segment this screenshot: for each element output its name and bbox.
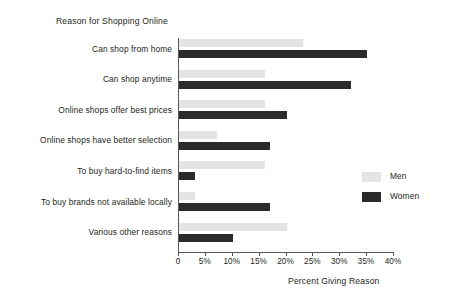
- bar-group: To buy brands not available locally: [178, 191, 393, 212]
- x-tick-label: 40%: [385, 257, 402, 266]
- bar-group: Can shop anytime: [178, 69, 393, 90]
- x-tick-label: 25%: [304, 257, 321, 266]
- legend-swatch-icon: [362, 192, 381, 202]
- bar-women: [179, 111, 287, 119]
- bar-group: To buy hard-to-find items: [178, 160, 393, 181]
- x-tick-label: 20%: [277, 257, 294, 266]
- x-tick-mark: [393, 252, 394, 256]
- category-label: Online shops have better selection: [40, 135, 172, 145]
- bar-men: [179, 131, 217, 139]
- chart-title: Reason for Shopping Online: [56, 16, 168, 26]
- bar-men: [179, 100, 265, 108]
- x-tick-label: 15%: [250, 257, 267, 266]
- legend-label: Men: [390, 171, 407, 181]
- bar-women: [179, 172, 195, 180]
- bar-women: [179, 50, 367, 58]
- x-tick-mark: [205, 252, 206, 256]
- bar-women: [179, 142, 270, 150]
- bar-men: [179, 161, 265, 169]
- x-tick-mark: [366, 252, 367, 256]
- x-tick-label: 10%: [223, 257, 240, 266]
- bar-women: [179, 81, 351, 89]
- bar-men: [179, 223, 287, 231]
- bar-men: [179, 39, 303, 47]
- x-tick-label: 35%: [358, 257, 375, 266]
- x-tick-mark: [232, 252, 233, 256]
- category-label: Online shops offer best prices: [58, 105, 172, 115]
- category-label: To buy hard-to-find items: [77, 166, 172, 176]
- category-label: To buy brands not available locally: [41, 197, 172, 207]
- x-axis-title: Percent Giving Reason: [288, 276, 380, 286]
- legend-label: Women: [390, 191, 419, 201]
- legend-swatch-icon: [362, 172, 381, 182]
- plot-area: Can shop from homeCan shop anytimeOnline…: [178, 38, 393, 252]
- x-tick-mark: [259, 252, 260, 256]
- x-tick-mark: [178, 252, 179, 256]
- x-tick-label: 5%: [199, 257, 211, 266]
- bar-group: Online shops offer best prices: [178, 99, 393, 120]
- category-label: Various other reasons: [89, 227, 172, 237]
- bar-group: Online shops have better selection: [178, 130, 393, 151]
- x-tick-label: 0: [176, 257, 181, 266]
- x-tick-label: 30%: [331, 257, 348, 266]
- bar-women: [179, 203, 270, 211]
- bar-women: [179, 234, 233, 242]
- x-tick-mark: [312, 252, 313, 256]
- bar-chart: Reason for Shopping Online Can shop from…: [0, 0, 452, 301]
- bar-men: [179, 70, 265, 78]
- category-label: Can shop anytime: [103, 74, 172, 84]
- bar-group: Various other reasons: [178, 222, 393, 243]
- x-tick-mark: [339, 252, 340, 256]
- x-tick-mark: [286, 252, 287, 256]
- bar-group: Can shop from home: [178, 38, 393, 59]
- bar-men: [179, 192, 195, 200]
- category-label: Can shop from home: [92, 44, 172, 54]
